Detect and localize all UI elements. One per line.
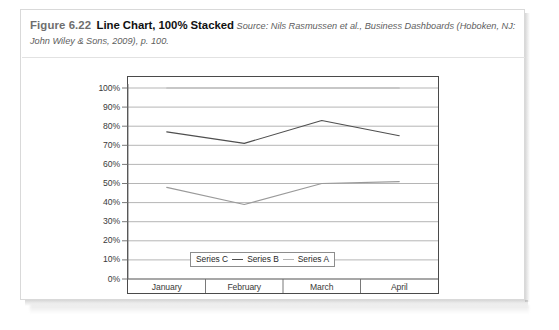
legend-item[interactable]: Series A xyxy=(298,254,329,264)
caption-divider xyxy=(22,57,525,58)
y-axis-tick-label: 10% xyxy=(76,254,120,264)
legend-item[interactable]: Series B xyxy=(247,254,279,264)
figure-title: Line Chart, 100% Stacked xyxy=(96,19,233,31)
figure-caption: Figure 6.22 Line Chart, 100% Stacked Sou… xyxy=(30,19,517,48)
series-line-series-c xyxy=(167,182,400,205)
legend-item-label: Series C xyxy=(196,254,228,264)
y-axis-tick-label: 80% xyxy=(76,121,120,131)
x-axis-tick-label: April xyxy=(361,282,439,292)
y-axis-tick-label: 0% xyxy=(76,274,120,284)
y-axis-tick-label: 30% xyxy=(76,216,120,226)
y-axis-tick-label: 70% xyxy=(76,140,120,150)
y-axis-tick-label: 50% xyxy=(76,178,120,188)
chart-legend[interactable]: Series CSeries BSeries A xyxy=(190,252,335,267)
legend-line-swatch xyxy=(232,259,243,260)
plot-area: 100%90%80%70%60%50%40%30%20%10%0%January… xyxy=(111,74,441,296)
series-line-series-b xyxy=(167,120,400,143)
legend-item[interactable]: Series C xyxy=(196,254,228,264)
figure-card: Figure 6.22 Line Chart, 100% Stacked Sou… xyxy=(20,9,525,300)
y-axis-tick-label: 60% xyxy=(76,159,120,169)
y-axis-tick-label: 100% xyxy=(76,83,120,93)
figure-number: Figure 6.22 xyxy=(30,19,91,31)
card-shadow-right xyxy=(525,13,530,302)
x-axis-tick-label: January xyxy=(128,282,206,292)
chart-container: 100%90%80%70%60%50%40%30%20%10%0%January… xyxy=(111,74,441,296)
x-axis-tick-label: March xyxy=(283,282,361,292)
page-root: Figure 6.22 Line Chart, 100% Stacked Sou… xyxy=(0,0,559,330)
y-axis-tick-label: 20% xyxy=(76,235,120,245)
y-axis-tick-label: 40% xyxy=(76,197,120,207)
legend-line-swatch xyxy=(283,259,294,260)
card-shadow-bottom-soft xyxy=(30,305,529,314)
legend-item-label: Series B xyxy=(247,254,279,264)
y-axis-tick-label: 90% xyxy=(76,102,120,112)
legend-item-label: Series A xyxy=(298,254,329,264)
x-axis-tick-label: February xyxy=(206,282,284,292)
